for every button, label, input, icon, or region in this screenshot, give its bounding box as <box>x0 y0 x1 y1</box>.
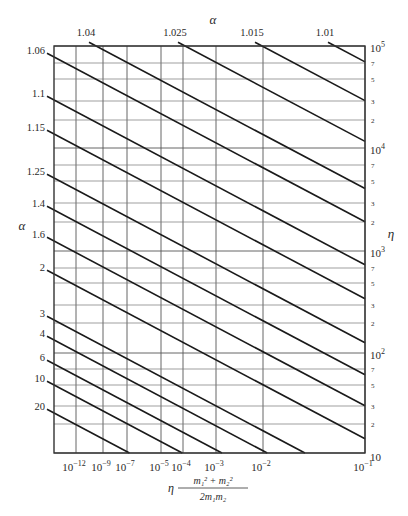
y-tick-label-minor: 7 <box>371 162 375 170</box>
y-tick-label-minor: 5 <box>371 178 375 186</box>
alpha-line <box>47 237 365 406</box>
y-tick-label-minor: 7 <box>371 265 375 273</box>
y-tick-label-minor: 2 <box>371 421 375 429</box>
alpha-left-label: 2 <box>40 262 45 273</box>
alpha-line <box>89 42 365 188</box>
alpha-line <box>47 316 305 453</box>
x-tick-label: 10−7 <box>115 459 135 473</box>
y-tick-label-minor: 3 <box>371 403 375 411</box>
alpha-line <box>47 130 365 299</box>
y-tick-label-minor: 7 <box>371 60 375 68</box>
x-tick-label: 10−5 <box>149 459 169 473</box>
y-tick-label-major: 104 <box>370 142 385 156</box>
alpha-left-label: 1.1 <box>32 88 45 99</box>
alpha-left-label: 1.25 <box>27 166 45 177</box>
y-tick-label-major: 105 <box>370 40 385 54</box>
alpha-lines <box>47 42 365 453</box>
y-tick-label-minor: 2 <box>371 117 375 125</box>
x-axis-title-eta: η <box>168 481 174 495</box>
alpha-line <box>47 174 365 343</box>
y-tick-label-minor: 3 <box>371 98 375 106</box>
left-axis-title: α <box>19 218 27 233</box>
y-tick-label-minor: 7 <box>371 366 375 374</box>
x-tick-label: 10−4 <box>171 459 191 473</box>
y-tick-label-major: 102 <box>370 347 385 361</box>
y-tick-label-minor: 5 <box>371 280 375 288</box>
top-axis-title: α <box>210 12 218 27</box>
y-tick-label-minor: 2 <box>371 320 375 328</box>
alpha-left-label: 1.6 <box>32 229 45 240</box>
nomogram-chart: 10−1210−910−710−510−410−310−210−11057532… <box>0 0 408 516</box>
alpha-left-label: 4 <box>40 328 46 339</box>
alpha-line <box>328 42 365 62</box>
y-tick-label-minor: 5 <box>371 382 375 390</box>
alpha-left-label: 1.15 <box>27 122 45 133</box>
alpha-line <box>47 360 222 453</box>
y-tick-label-minor: 3 <box>371 302 375 310</box>
x-tick-label: 10−12 <box>62 459 86 473</box>
y-tick-label-major: 103 <box>370 245 385 259</box>
alpha-top-label: 1.015 <box>240 27 264 38</box>
alpha-left-label: 1.4 <box>32 198 46 209</box>
x-tick-label: 10−3 <box>204 459 224 473</box>
alpha-left-label: 6 <box>40 352 45 363</box>
alpha-top-label: 1.01 <box>316 27 334 38</box>
alpha-top-label: 1.04 <box>77 27 96 38</box>
x-tick-label: 10−9 <box>91 459 111 473</box>
alpha-line <box>47 96 365 265</box>
alpha-line <box>47 381 182 453</box>
alpha-left-label: 10 <box>35 373 46 384</box>
x-tick-label: 10−2 <box>251 459 271 473</box>
alpha-left-label: 3 <box>40 308 45 319</box>
x-axis-title-denominator: 2m₁m₂ <box>200 491 227 502</box>
right-axis-title: η <box>388 226 394 241</box>
alpha-left-label: 20 <box>35 401 46 412</box>
alpha-line <box>47 409 129 453</box>
x-axis-title-numerator: m₁² + m₂² <box>193 475 233 486</box>
alpha-left-label: 1.06 <box>27 45 45 56</box>
alpha-top-label: 1.025 <box>163 27 187 38</box>
y-tick-label-minor: 3 <box>371 200 375 208</box>
alpha-line <box>47 336 267 453</box>
alpha-line <box>47 53 365 222</box>
alpha-line <box>178 42 365 141</box>
y-tick-label-minor: 5 <box>371 76 375 84</box>
y-tick-label-major: 10 <box>370 451 382 463</box>
alpha-line <box>47 270 365 439</box>
alpha-line <box>47 206 365 375</box>
y-tick-label-minor: 2 <box>371 219 375 227</box>
